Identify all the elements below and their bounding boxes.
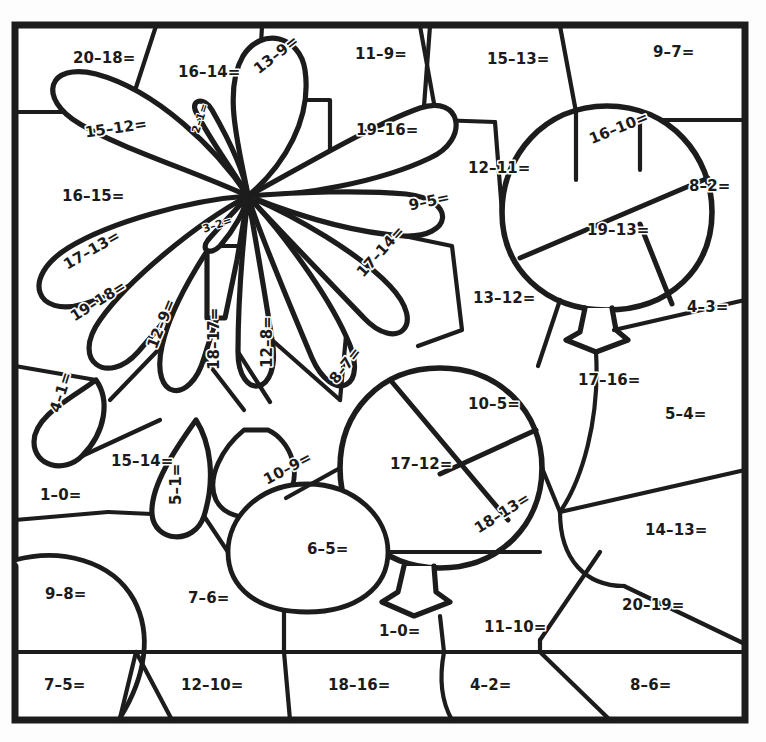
problem-label: 19–16= — [356, 121, 418, 139]
problem-label: 10–5= — [468, 395, 520, 413]
problem-label: 7–6= — [188, 589, 229, 607]
problem-label: 11–10= — [484, 618, 546, 636]
problem-label: 14–13= — [645, 521, 707, 539]
problem-label: 11–9= — [355, 45, 407, 63]
problem-label: 9–8= — [45, 585, 86, 603]
worksheet-canvas: 20–18=16–14=13–9=11–9=15–13=9–7=15–12=2–… — [0, 0, 766, 742]
problem-label: 18–16= — [328, 676, 390, 694]
problem-label: 7–5= — [44, 676, 85, 694]
problem-label: 12–10= — [181, 676, 243, 694]
problem-label: 1–0= — [40, 486, 81, 504]
problem-label: 19–13= — [587, 221, 649, 239]
problem-label: 20–18= — [73, 49, 135, 67]
problem-label: 9–7= — [653, 43, 694, 61]
problem-label: 17–12= — [390, 455, 452, 473]
problem-label: 8–6= — [630, 676, 671, 694]
coloring-picture: 20–18=16–14=13–9=11–9=15–13=9–7=15–12=2–… — [0, 0, 766, 742]
problem-label: 20–19= — [622, 596, 684, 614]
problem-label: 13–12= — [473, 289, 535, 307]
problem-label: 5–1= — [167, 464, 185, 505]
problem-label: 4–2= — [470, 676, 511, 694]
problem-label: 4–3= — [687, 298, 728, 316]
problem-label: 1–0= — [379, 622, 420, 640]
problem-label: 15–13= — [487, 50, 549, 68]
problem-label: 12–8= — [258, 316, 276, 368]
problem-label: 8–2= — [689, 177, 730, 195]
problem-label: 16–15= — [62, 187, 124, 205]
problem-label: 12–11= — [468, 159, 530, 177]
problem-label: 6–5= — [307, 540, 348, 558]
problem-label: 16–14= — [178, 63, 240, 81]
problem-label: 18–17= — [205, 308, 223, 370]
problem-label: 17–16= — [578, 371, 640, 389]
problem-label: 15–14= — [111, 452, 173, 470]
problem-label: 5–4= — [665, 405, 706, 423]
